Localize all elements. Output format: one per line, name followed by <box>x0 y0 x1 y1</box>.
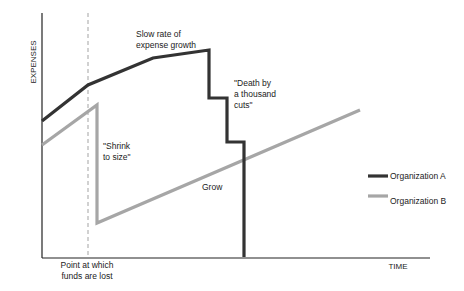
series-organization-a <box>42 50 244 257</box>
legend: Organization A Organization B <box>368 171 447 206</box>
annotation-grow: Grow <box>202 182 223 192</box>
series-organization-b <box>42 105 360 223</box>
annotation-death-line1: "Death by <box>234 78 272 88</box>
y-axis-label: EXPENSES <box>29 40 38 83</box>
funds-lost-label-line1: Point at which <box>61 260 114 270</box>
funds-lost-label-line2: funds are lost <box>61 271 113 281</box>
annotation-shrink-line2: to size" <box>103 152 131 162</box>
x-axis-label: TIME <box>388 262 407 271</box>
annotation-slow-growth-line2: expense growth <box>136 40 196 50</box>
annotation-slow-growth-line1: Slow rate of <box>136 29 182 39</box>
legend-label-organization-a: Organization A <box>390 171 446 181</box>
legend-label-organization-b: Organization B <box>390 196 447 206</box>
chart-canvas: EXPENSES TIME Point at which funds are l… <box>0 0 464 291</box>
annotation-shrink-line1: "Shrink <box>103 141 131 151</box>
annotation-death-line2: a thousand <box>234 89 276 99</box>
annotation-death-line3: cuts" <box>234 100 253 110</box>
